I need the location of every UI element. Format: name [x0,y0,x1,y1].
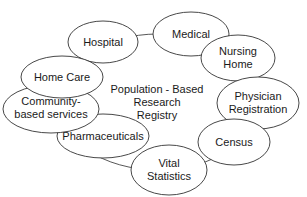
node-label: Physician [234,90,281,102]
center-label-line: Research [133,96,180,108]
node-vital-statistics: Vital Statistics [131,145,207,195]
node-census: Census [198,119,270,165]
node-label: Home [223,58,252,70]
node-label: Nursing [219,45,257,57]
node-label: Hospital [83,36,123,48]
registry-diagram: Hospital Medical Nursing Home Physician … [0,0,307,197]
node-label: Medical [172,28,210,40]
center-label-line: Registry [137,109,178,121]
node-label: Statistics [147,170,192,182]
node-label: Home Care [34,71,90,83]
center-label-line: Population - Based [111,83,204,95]
node-nursing-home: Nursing Home [201,35,275,81]
node-label: Vital [158,157,179,169]
node-label: Pharmaceuticals [62,130,144,142]
node-hospital: Hospital [68,21,138,63]
center-label: Population - Based Research Registry [111,83,204,121]
node-label: based services [14,108,88,120]
node-home-care: Home Care [21,56,103,98]
node-label: Census [215,136,253,148]
node-label: Registration [229,103,288,115]
